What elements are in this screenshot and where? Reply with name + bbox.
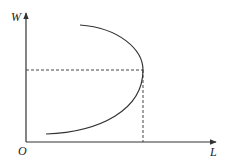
x-axis-label: L (209, 145, 217, 159)
origin-label: O (18, 144, 27, 158)
diagram-canvas: W O L (0, 0, 229, 167)
y-axis-label: W (11, 10, 22, 24)
supply-curve (46, 25, 143, 134)
